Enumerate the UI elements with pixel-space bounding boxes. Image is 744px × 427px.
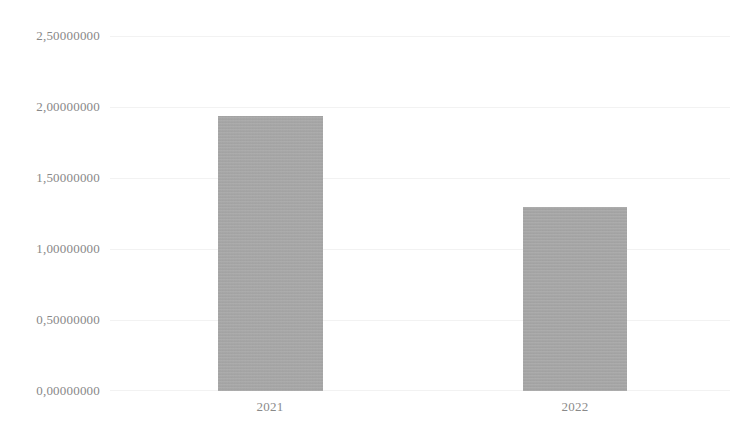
gridline-1-5 bbox=[110, 178, 730, 179]
x-axis-label-2021: 2021 bbox=[208, 399, 332, 415]
gridline-2-0 bbox=[110, 107, 730, 108]
gridline-2-5 bbox=[110, 36, 730, 37]
bar-2021 bbox=[218, 116, 323, 391]
y-axis-tick-label: 0,00000000 bbox=[0, 383, 100, 399]
gridline-0-0 bbox=[110, 390, 730, 391]
x-axis-label-2022: 2022 bbox=[513, 399, 637, 415]
y-axis-tick-label: 1,00000000 bbox=[0, 241, 100, 257]
plot-area bbox=[110, 36, 730, 391]
gridline-0-5 bbox=[110, 320, 730, 321]
y-axis-tick-label: 0,50000000 bbox=[0, 312, 100, 328]
bar-2022 bbox=[523, 207, 627, 391]
bar-chart: 2,50000000 2,00000000 1,50000000 1,00000… bbox=[0, 0, 744, 427]
gridline-1-0 bbox=[110, 249, 730, 250]
y-axis-tick-label: 1,50000000 bbox=[0, 170, 100, 186]
y-axis-tick-label: 2,00000000 bbox=[0, 99, 100, 115]
y-axis-tick-label: 2,50000000 bbox=[0, 28, 100, 44]
